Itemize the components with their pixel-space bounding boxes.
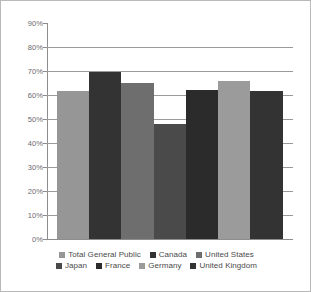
legend-item-united-states[interactable]: United States (196, 250, 254, 259)
plot-area (47, 23, 293, 239)
bar-united-states (121, 83, 153, 239)
legend-label: France (105, 261, 130, 270)
bar-japan (154, 124, 186, 239)
legend-item-germany[interactable]: Germany (139, 261, 181, 270)
legend-label: Total General Public (68, 250, 141, 259)
legend-label: Japan (65, 261, 87, 270)
legend-swatch-icon (190, 263, 196, 269)
gridline-0 (47, 239, 293, 240)
legend-swatch-icon (196, 252, 202, 258)
y-axis-label-40: 40% (1, 139, 43, 148)
bar-united-kingdom (250, 91, 282, 239)
y-axis-label-60: 60% (1, 91, 43, 100)
bar-canada (89, 72, 121, 239)
y-axis-label-80: 80% (1, 43, 43, 52)
legend-swatch-icon (56, 263, 62, 269)
bar-chart-figure: 0%10%20%30%40%50%60%70%80%90% Total Gene… (0, 0, 311, 292)
legend-item-united-kingdom[interactable]: United Kingdom (190, 261, 257, 270)
legend-label: Germany (148, 261, 181, 270)
y-axis-label-50: 50% (1, 115, 43, 124)
legend-item-japan[interactable]: Japan (56, 261, 87, 270)
legend-swatch-icon (59, 252, 65, 258)
legend-row-2: JapanFranceGermanyUnited Kingdom (1, 261, 311, 270)
y-axis-label-90: 90% (1, 19, 43, 28)
legend-label: United States (205, 250, 254, 259)
y-axis-label-70: 70% (1, 67, 43, 76)
bar-series (47, 23, 293, 239)
bar-germany (218, 81, 250, 239)
bar-france (186, 90, 218, 239)
legend-item-france[interactable]: France (96, 261, 130, 270)
legend-row-1: Total General PublicCanadaUnited States (1, 250, 311, 259)
legend-item-canada[interactable]: Canada (150, 250, 187, 259)
legend-swatch-icon (150, 252, 156, 258)
y-axis-label-20: 20% (1, 187, 43, 196)
legend-item-total-general-public[interactable]: Total General Public (59, 250, 141, 259)
chart-legend: Total General PublicCanadaUnited StatesJ… (1, 250, 311, 272)
legend-swatch-icon (96, 263, 102, 269)
y-axis-labels: 0%10%20%30%40%50%60%70%80%90% (1, 23, 43, 239)
y-axis-label-30: 30% (1, 163, 43, 172)
legend-label: United Kingdom (199, 261, 257, 270)
y-axis-label-10: 10% (1, 211, 43, 220)
bar-total-general-public (57, 91, 89, 239)
y-axis-label-0: 0% (1, 235, 43, 244)
legend-label: Canada (159, 250, 187, 259)
y-tick-mark-0 (43, 239, 47, 240)
legend-swatch-icon (139, 263, 145, 269)
